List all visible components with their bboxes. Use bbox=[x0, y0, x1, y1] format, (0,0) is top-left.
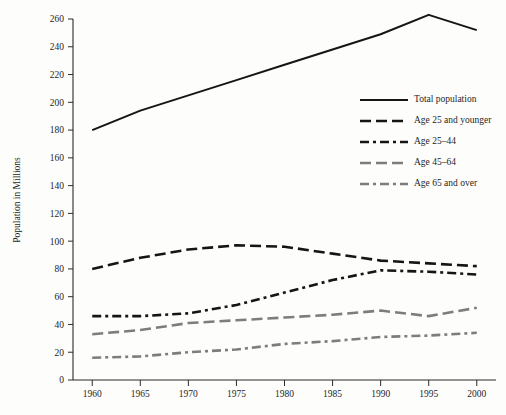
x-tick-label: 1960 bbox=[83, 389, 102, 399]
y-tick-label: 20 bbox=[55, 348, 65, 358]
y-tick-label: 220 bbox=[50, 70, 65, 80]
legend-label-4: Age 65 and over bbox=[414, 178, 478, 188]
x-tick-label: 2000 bbox=[467, 389, 486, 399]
series-line-2 bbox=[92, 270, 477, 316]
y-tick-label: 0 bbox=[59, 375, 64, 385]
y-axis: 020406080100120140160180200220240260 bbox=[50, 14, 73, 385]
y-tick-label: 120 bbox=[50, 209, 65, 219]
x-tick-label: 1975 bbox=[227, 389, 246, 399]
series-line-0 bbox=[92, 15, 477, 130]
chart-legend: Total populationAge 25 and youngerAge 25… bbox=[360, 94, 492, 188]
y-tick-label: 100 bbox=[50, 237, 65, 247]
x-axis: 196019651970197519801985199019952000 bbox=[73, 380, 496, 399]
y-tick-label: 80 bbox=[55, 264, 65, 274]
legend-label-2: Age 25–44 bbox=[414, 136, 456, 146]
x-tick-label: 1985 bbox=[323, 389, 342, 399]
y-tick-label: 40 bbox=[55, 320, 65, 330]
y-axis-title: Population in Millions bbox=[12, 157, 22, 243]
y-tick-label: 60 bbox=[55, 292, 65, 302]
x-tick-label: 1970 bbox=[179, 389, 198, 399]
x-tick-label: 1990 bbox=[371, 389, 390, 399]
y-tick-label: 180 bbox=[50, 125, 65, 135]
legend-label-3: Age 45–64 bbox=[414, 157, 456, 167]
series-line-4 bbox=[92, 333, 477, 358]
series-line-3 bbox=[92, 308, 477, 334]
y-tick-label: 260 bbox=[50, 14, 65, 24]
x-tick-label: 1995 bbox=[419, 389, 438, 399]
y-tick-label: 200 bbox=[50, 98, 65, 108]
y-tick-label: 140 bbox=[50, 181, 65, 191]
x-tick-label: 1965 bbox=[131, 389, 150, 399]
population-line-chart: 020406080100120140160180200220240260 196… bbox=[0, 0, 506, 415]
series-line-1 bbox=[92, 245, 477, 269]
legend-label-0: Total population bbox=[414, 94, 477, 104]
y-tick-label: 240 bbox=[50, 42, 65, 52]
plot-area: 020406080100120140160180200220240260 196… bbox=[0, 0, 506, 415]
legend-label-1: Age 25 and younger bbox=[414, 115, 492, 125]
y-tick-label: 160 bbox=[50, 153, 65, 163]
x-tick-label: 1980 bbox=[275, 389, 294, 399]
